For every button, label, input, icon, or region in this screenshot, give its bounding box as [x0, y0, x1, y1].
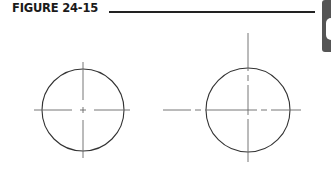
diagram-canvas [0, 0, 331, 170]
right-circle-group [163, 33, 305, 162]
left-circle-group [34, 62, 130, 158]
